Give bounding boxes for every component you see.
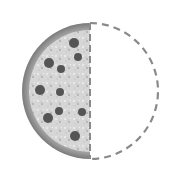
topping-dot <box>55 107 63 115</box>
topping-dot <box>56 88 64 96</box>
topping-dot <box>78 108 86 116</box>
topping-dot <box>35 85 45 95</box>
half-pizza-illustration <box>0 0 173 172</box>
topping-dot <box>69 38 79 48</box>
half-pizza-icon <box>0 0 173 172</box>
topping-dot <box>44 58 54 68</box>
topping-dot <box>70 131 80 141</box>
missing-half-dashed-outline <box>90 23 158 159</box>
topping-dot <box>74 53 82 61</box>
topping-dot <box>57 65 65 73</box>
topping-dot <box>43 113 53 123</box>
